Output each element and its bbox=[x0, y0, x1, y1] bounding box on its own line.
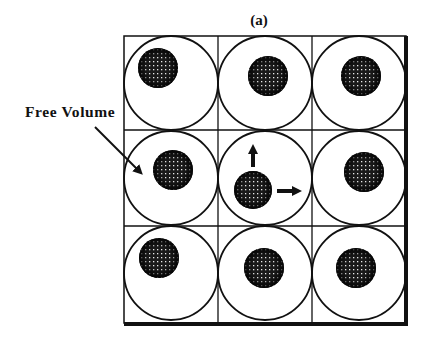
particle bbox=[139, 238, 179, 278]
particles bbox=[138, 48, 384, 288]
free-volume-label: Free Volume bbox=[25, 103, 115, 120]
free-volume-diagram: (a) Free Volume bbox=[0, 0, 431, 348]
particle bbox=[341, 56, 381, 96]
particle bbox=[248, 56, 288, 96]
particle bbox=[138, 48, 178, 88]
particle bbox=[336, 248, 376, 288]
particle bbox=[244, 248, 284, 288]
particle-moving bbox=[234, 171, 272, 209]
particle bbox=[344, 152, 384, 192]
panel-label: (a) bbox=[250, 12, 268, 29]
particle bbox=[153, 150, 193, 190]
